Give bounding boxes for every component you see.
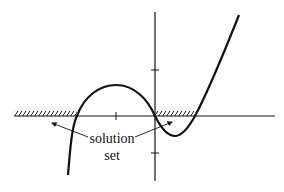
pointer-arrow-left <box>52 123 88 137</box>
pointer-arrow-right <box>135 122 172 137</box>
solution-set-label-line2: set <box>104 148 120 163</box>
solution-set-right-hatch <box>155 111 195 116</box>
cubic-inequality-diagram: solution set <box>0 0 284 192</box>
solution-set-left-hatch <box>14 111 77 116</box>
solution-set-label-line1: solution <box>89 131 134 146</box>
cubic-curve <box>68 15 239 175</box>
